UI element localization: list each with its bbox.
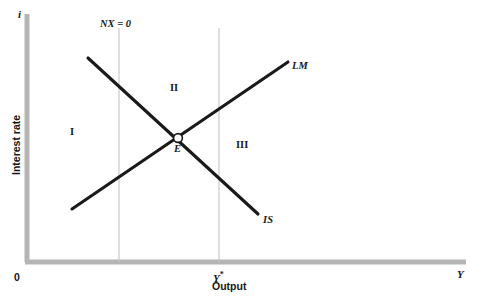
nx-zero-line-label: NX = 0 — [100, 19, 131, 30]
equilibrium-point-label: E — [174, 144, 181, 155]
y-axis-title: Interest rate — [11, 115, 22, 175]
y-axis-variable-label: i — [18, 9, 21, 20]
lm-curve-label: LM — [292, 61, 308, 72]
x-tick-label-y-star: Y* — [213, 271, 224, 284]
equilibrium-point-marker — [174, 134, 183, 143]
origin-label: 0 — [14, 272, 20, 283]
is-curve-label: IS — [263, 215, 273, 226]
region-label-two: II — [170, 83, 178, 94]
region-label-one: I — [70, 127, 74, 138]
region-label-three: III — [236, 140, 248, 151]
figure-canvas: i Interest rate Y Output 0 Y* NX = 0 LM … — [0, 0, 482, 300]
x-axis-variable-label: Y — [457, 269, 464, 280]
